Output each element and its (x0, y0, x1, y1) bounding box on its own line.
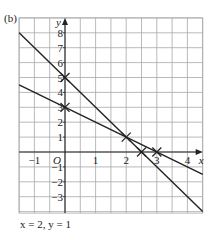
y-tick-label: 2 (58, 116, 64, 128)
y-tick-label: 7 (58, 42, 64, 54)
y-tick-label: −3 (51, 191, 63, 203)
y-axis-label: y (55, 16, 61, 28)
y-tick-label: 6 (58, 57, 64, 69)
x-tick-label: −1 (29, 154, 41, 166)
y-tick-label: 4 (58, 86, 64, 98)
answer-text: x = 2, y = 1 (20, 218, 71, 230)
origin-label: O (53, 154, 61, 166)
y-tick-label: 8 (58, 27, 64, 39)
x-axis-label: x (198, 154, 204, 166)
y-axis-arrow-icon (62, 18, 68, 25)
y-tick-label: −2 (51, 176, 63, 188)
x-tick-label: 2 (123, 154, 129, 166)
y-tick-label: 1 (58, 131, 64, 143)
line-chart: −1123487654321−1−2−3Oxy (0, 0, 211, 240)
x-tick-label: 1 (93, 154, 99, 166)
x-tick-label: 4 (185, 154, 191, 166)
